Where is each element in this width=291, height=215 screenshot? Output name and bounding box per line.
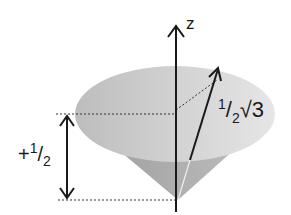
magnitude-label: 1/2√3: [218, 96, 264, 126]
magnitude-root: √3: [240, 97, 264, 122]
magnitude-denominator: 2: [232, 110, 240, 126]
z-axis-label: z: [186, 14, 195, 34]
projection-numerator: 1: [30, 140, 38, 156]
projection-label: +1/2: [18, 140, 51, 169]
projection-denominator: 2: [43, 153, 51, 169]
projection-sign: +: [18, 143, 30, 165]
magnitude-numerator: 1: [218, 96, 226, 112]
